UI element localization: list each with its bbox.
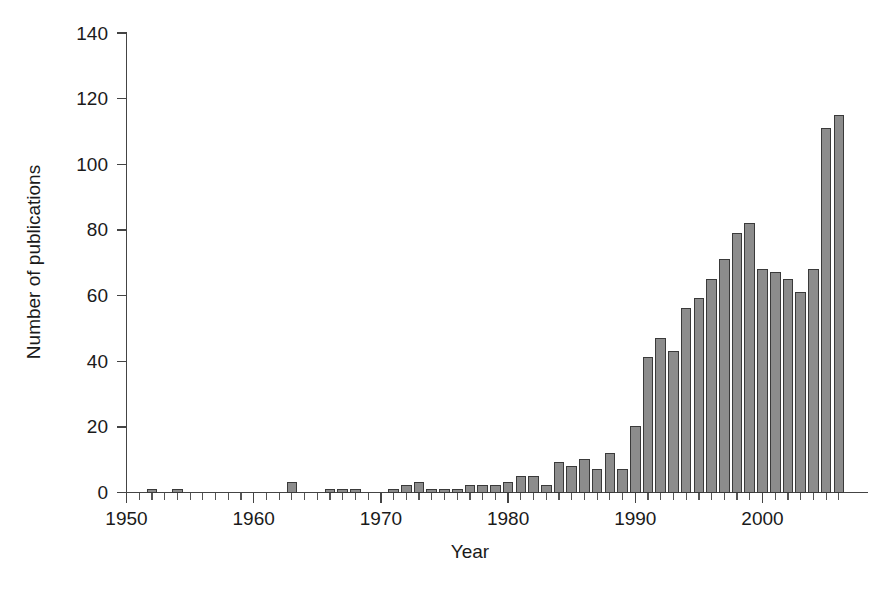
bar-1990 xyxy=(631,427,641,493)
x-tick-label-2000: 2000 xyxy=(741,508,783,529)
bar-1973 xyxy=(414,483,424,493)
y-tick-label-140: 140 xyxy=(76,23,108,44)
bar-1954 xyxy=(173,489,183,492)
x-tick-label-1980: 1980 xyxy=(487,508,529,529)
bar-1998 xyxy=(732,233,742,492)
bar-1999 xyxy=(745,223,755,492)
bar-1995 xyxy=(694,299,704,493)
bar-1952 xyxy=(147,489,157,492)
bar-1986 xyxy=(580,460,590,493)
bar-1984 xyxy=(554,463,564,493)
bar-1991 xyxy=(643,358,653,493)
bar-1972 xyxy=(402,486,412,493)
bar-2003 xyxy=(796,292,806,492)
publications-bar-chart: Number of publications Year 195019601970… xyxy=(0,0,874,591)
x-tick-label-1960: 1960 xyxy=(233,508,275,529)
bar-1977 xyxy=(465,486,475,493)
bar-1963 xyxy=(287,483,297,493)
bar-series xyxy=(147,115,843,492)
bar-1987 xyxy=(592,470,602,493)
y-tick-label-120: 120 xyxy=(76,88,108,109)
bar-2004 xyxy=(809,269,819,492)
bar-1975 xyxy=(440,489,450,492)
x-axis-tick-labels: 195019601970198019902000 xyxy=(105,508,783,529)
bar-1994 xyxy=(681,309,691,493)
x-axis-minor-ticks xyxy=(139,493,839,501)
bar-2006 xyxy=(834,115,844,492)
bar-1997 xyxy=(720,259,730,492)
y-tick-label-100: 100 xyxy=(76,154,108,175)
bar-1992 xyxy=(656,338,666,492)
bar-2000 xyxy=(758,269,768,492)
bar-1981 xyxy=(516,476,526,492)
bar-2005 xyxy=(821,128,831,492)
bar-1996 xyxy=(707,279,717,492)
chart-canvas: Number of publications Year 195019601970… xyxy=(0,0,874,591)
x-axis-label: Year xyxy=(451,541,490,562)
y-axis-ticks xyxy=(117,33,127,493)
bar-2001 xyxy=(770,273,780,493)
y-tick-label-20: 20 xyxy=(87,416,108,437)
y-tick-label-80: 80 xyxy=(87,219,108,240)
x-tick-label-1990: 1990 xyxy=(614,508,656,529)
bar-1976 xyxy=(452,489,462,492)
bar-1993 xyxy=(669,351,679,492)
bar-1967 xyxy=(338,489,348,492)
bar-1974 xyxy=(427,489,437,492)
bar-1982 xyxy=(529,476,539,492)
y-tick-label-0: 0 xyxy=(97,482,108,503)
y-axis-label: Number of publications xyxy=(23,165,44,359)
bar-1979 xyxy=(491,486,501,493)
bar-1989 xyxy=(618,470,628,493)
bar-1983 xyxy=(541,486,551,493)
bar-1988 xyxy=(605,453,615,492)
bar-1968 xyxy=(351,489,361,492)
bar-1966 xyxy=(325,489,335,492)
y-axis-tick-labels: 020406080100120140 xyxy=(76,23,108,504)
bar-1971 xyxy=(389,489,399,492)
x-tick-label-1970: 1970 xyxy=(360,508,402,529)
bar-1980 xyxy=(503,483,513,493)
bar-1978 xyxy=(478,486,488,493)
x-tick-label-1950: 1950 xyxy=(105,508,147,529)
y-tick-label-60: 60 xyxy=(87,285,108,306)
bar-1985 xyxy=(567,466,577,492)
bar-2002 xyxy=(783,279,793,492)
y-tick-label-40: 40 xyxy=(87,351,108,372)
